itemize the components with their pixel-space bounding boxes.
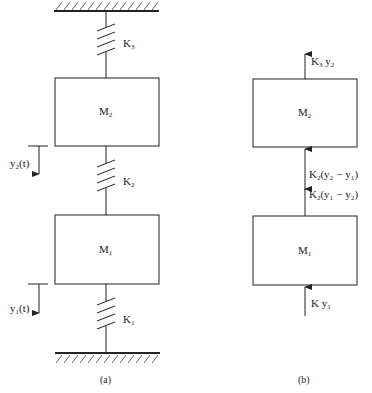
spring-k2-label: K2: [123, 176, 134, 189]
displacement-y2-arrow: [28, 146, 48, 174]
spring-k1: [97, 284, 115, 353]
spring-k1-label: K1: [123, 314, 134, 327]
displacement-y1-arrow: [28, 284, 48, 313]
spring-k2: [97, 146, 115, 215]
displacement-y2-label: y2(t): [10, 158, 29, 171]
spring-k3-label: K3: [123, 38, 134, 51]
force-label-ky1: K y1: [311, 298, 331, 311]
mass-m1-label-a: M1: [99, 244, 112, 257]
mass-m2-label-b: M2: [298, 107, 311, 120]
panel-a-caption: (a): [100, 375, 111, 385]
mass-m1-label-b: M1: [298, 245, 311, 258]
panel-b-caption: (b): [298, 375, 310, 385]
force-label-k2-m1: K2(y₁ − y₂): [309, 189, 358, 202]
displacement-y1-label: y1(t): [10, 303, 29, 316]
spring-k3: [97, 11, 115, 78]
mass-m2-label-a: M2: [99, 106, 112, 119]
floor-support: [55, 353, 160, 363]
force-label-k3y2: K3 y2: [311, 56, 334, 69]
force-label-k2-m2: K2(y₂ − y₁): [309, 169, 358, 182]
ceiling-support: [54, 2, 159, 11]
